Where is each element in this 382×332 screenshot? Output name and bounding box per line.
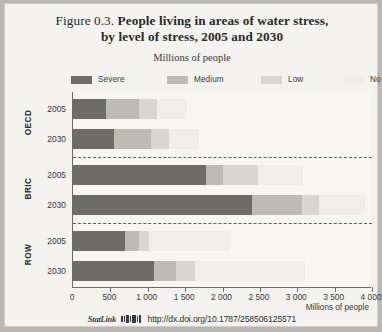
figure-title: Figure 0.3. People living in areas of wa… xyxy=(5,13,379,45)
y-tick-label-row-2005: 2005 xyxy=(36,236,66,246)
figure-subtitle: Millions of people xyxy=(5,52,379,63)
x-axis-title: Millions of people xyxy=(306,303,369,312)
bar-segment-no xyxy=(195,261,306,281)
legend-label-low: Low xyxy=(288,75,303,84)
x-tick-label-2000: 2 000 xyxy=(211,292,232,302)
legend-swatch-no xyxy=(343,76,364,84)
bar-segment-no xyxy=(319,195,365,215)
y-tick-label-oecd-2030: 2030 xyxy=(36,134,66,144)
bar-segment-medium xyxy=(252,195,302,215)
x-tick-label-1000: 1 000 xyxy=(136,292,157,302)
bar-segment-severe xyxy=(73,99,106,119)
bar-segment-low xyxy=(176,261,195,281)
legend-item-medium: Medium xyxy=(167,70,224,84)
group-separator xyxy=(73,157,372,158)
figure-title-line-1: People living in areas of water stress, xyxy=(118,13,329,28)
statlink-label: StatLink xyxy=(88,315,116,324)
legend-label-medium: Medium xyxy=(194,75,224,84)
group-label-row: ROW xyxy=(24,233,33,277)
y-tick-label-row-2030: 2030 xyxy=(36,266,66,276)
legend-label-no: No xyxy=(370,75,381,84)
bar-segment-severe xyxy=(73,165,206,185)
statlink-barcode-icon xyxy=(121,315,141,325)
legend-label-severe: Severe xyxy=(98,75,125,84)
bar-segment-medium xyxy=(154,261,176,281)
y-tick-label-bric-2005: 2005 xyxy=(36,170,66,180)
bar-segment-low xyxy=(139,99,157,119)
x-tick-label-3000: 3 000 xyxy=(286,292,307,302)
bar-segment-severe xyxy=(73,231,125,251)
x-tick-label-500: 500 xyxy=(102,292,116,302)
statlink-url[interactable]: http://dx.doi.org/10.1787/258506125571 xyxy=(148,314,297,324)
bar-segment-severe xyxy=(73,261,154,281)
group-label-bric: BRIC xyxy=(24,167,33,211)
legend-swatch-medium xyxy=(167,76,188,84)
x-tick-label-4000: 4 000 xyxy=(361,292,382,302)
bar-segment-no xyxy=(169,129,199,149)
figure-number: Figure 0.3. xyxy=(56,13,115,28)
bar-segment-medium xyxy=(114,129,151,149)
figure-panel: Figure 0.3. People living in areas of wa… xyxy=(4,3,378,327)
bar-segment-low xyxy=(302,195,319,215)
y-tick-label-bric-2030: 2030 xyxy=(36,200,66,210)
group-label-oecd: OECD xyxy=(24,101,33,145)
legend-swatch-severe xyxy=(71,76,92,84)
x-tick-label-3500: 3 500 xyxy=(323,292,344,302)
bar-segment-low xyxy=(139,231,149,251)
figure-title-line-2: by level of stress, 2005 and 2030 xyxy=(5,29,379,45)
group-separator xyxy=(73,223,372,224)
bar-segment-severe xyxy=(73,129,114,149)
legend-item-severe: Severe xyxy=(71,70,125,84)
legend-swatch-low xyxy=(261,76,282,84)
bar-segment-no xyxy=(149,231,230,251)
bar-segment-medium xyxy=(106,99,139,119)
bar-segment-severe xyxy=(73,195,252,215)
y-tick-label-oecd-2005: 2005 xyxy=(36,104,66,114)
statlink-footer: StatLink http://dx.doi.org/10.1787/25850… xyxy=(5,314,379,325)
bar-segment-medium xyxy=(206,165,223,185)
x-tick-label-1500: 1 500 xyxy=(174,292,195,302)
bar-segment-medium xyxy=(125,231,139,251)
bar-segment-no xyxy=(258,165,303,185)
bar-segment-no xyxy=(157,99,187,119)
legend-item-low: Low xyxy=(261,70,303,84)
bar-segment-low xyxy=(151,129,169,149)
chart-legend: SevereMediumLowNo xyxy=(71,70,371,84)
legend-item-no: No xyxy=(343,70,381,84)
x-tick-label-0: 0 xyxy=(70,292,75,302)
bar-segment-low xyxy=(223,165,258,185)
x-tick-label-2500: 2 500 xyxy=(248,292,269,302)
plot-area xyxy=(72,92,371,288)
